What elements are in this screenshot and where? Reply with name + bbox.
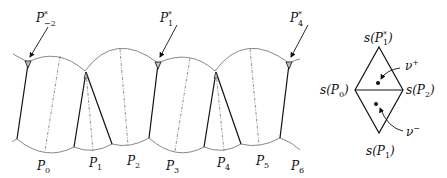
label-s-p2: s(P2): [406, 83, 435, 99]
vertex-triangles: [25, 61, 292, 78]
label-p-minus2-star: P*−2: [35, 10, 56, 28]
bottom-boundary-arcs: [12, 138, 300, 153]
label-nu-plus: ν+: [405, 58, 419, 73]
label-p1-star: P*1: [159, 10, 173, 28]
label-p6: P6: [290, 159, 304, 175]
label-p1: P1: [88, 156, 102, 172]
label-s-p1-star: s(P*1): [364, 30, 393, 47]
solid-edges: [17, 64, 289, 147]
label-s-p1: s(P1): [366, 144, 395, 160]
label-nu-minus: ν−: [406, 124, 420, 139]
top-boundary-arcs: [13, 48, 300, 71]
label-p5: P5: [255, 154, 269, 170]
diamond-diagram: s(P*1) ν+ s(P0) s(P2) ν− s(P1): [320, 30, 435, 160]
label-arrows: [30, 25, 308, 57]
label-s-p0: s(P0): [320, 83, 349, 99]
bottom-labels: P0 P1 P2 P3 P4 P5 P6: [36, 154, 304, 175]
label-p4: P4: [216, 156, 230, 172]
label-p0: P0: [36, 159, 50, 175]
label-p4-star: P*4: [289, 10, 303, 28]
tiling-diagram: P*−2 P*1 P*4 P0 P1 P2 P3 P4 P5 P6 s(P*1)…: [0, 0, 447, 178]
top-labels: P*−2 P*1 P*4: [35, 10, 303, 28]
diagram-stage: P*−2 P*1 P*4 P0 P1 P2 P3 P4 P5 P6 s(P*1)…: [0, 0, 447, 178]
label-p3: P3: [165, 159, 179, 175]
label-p2: P2: [126, 154, 140, 170]
nu-minus-dot: [374, 102, 378, 106]
nu-plus-dot: [376, 81, 380, 85]
